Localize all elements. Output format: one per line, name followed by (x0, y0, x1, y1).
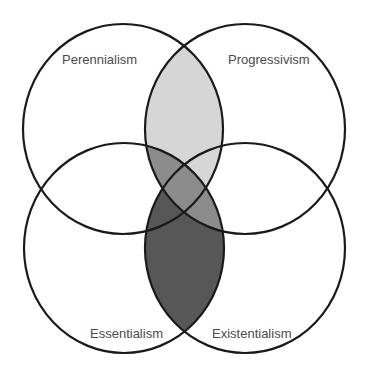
label-existentialism: Existentialism (212, 326, 291, 341)
label-perennialism: Perennialism (62, 52, 137, 67)
label-essentialism: Essentialism (90, 326, 163, 341)
label-progressivism: Progressivism (228, 52, 310, 67)
venn-diagram: Perennialism Progressivism Essentialism … (0, 0, 365, 373)
